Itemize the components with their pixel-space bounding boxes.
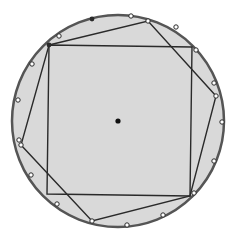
- circumference-point: [212, 81, 216, 85]
- circumference-point: [55, 202, 59, 206]
- circumference-point: [212, 159, 216, 163]
- circumference-point: [220, 120, 224, 124]
- circumference-point: [174, 25, 178, 29]
- circumference-point: [16, 98, 20, 102]
- circumference-point: [19, 143, 23, 147]
- circumference-point: [214, 94, 218, 98]
- circumference-point: [125, 223, 129, 227]
- circumference-point: [194, 48, 198, 52]
- circumference-point: [146, 19, 150, 23]
- circle-polygon-diagram: [0, 0, 234, 240]
- circumference-point: [17, 138, 21, 142]
- circumference-point: [161, 213, 165, 217]
- vertex-point: [47, 43, 52, 48]
- circumference-point: [29, 173, 33, 177]
- vertex-point: [90, 17, 95, 22]
- circumference-point: [57, 34, 61, 38]
- circumference-point: [90, 219, 94, 223]
- circumference-point: [30, 62, 34, 66]
- circumference-point: [129, 14, 133, 18]
- center-point: [115, 118, 120, 123]
- circumference-point: [192, 191, 196, 195]
